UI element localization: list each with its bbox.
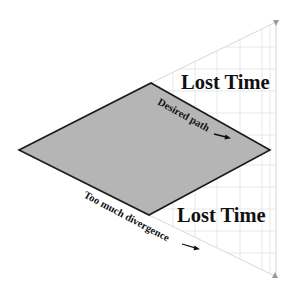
diagram-canvas: Lost Time Lost Time Desired path Too muc… bbox=[0, 0, 293, 296]
lost-time-top-label: Lost Time bbox=[181, 71, 270, 93]
arrow-right-icon bbox=[182, 244, 200, 250]
diagram-svg: Lost Time Lost Time Desired path Too muc… bbox=[0, 0, 293, 296]
diamond-shape bbox=[19, 83, 270, 215]
lost-time-bottom-label: Lost Time bbox=[177, 204, 266, 226]
